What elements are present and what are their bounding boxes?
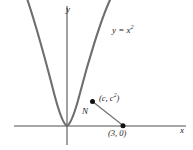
parabola-figure: y x y = x2 (c, c2) N (3, 0) — [0, 0, 193, 150]
curve-equation-label: y = x2 — [112, 26, 134, 35]
x-axis-label: x — [180, 126, 184, 135]
y-axis-label: y — [66, 5, 70, 14]
point-c-coordinates-open: (c, c — [99, 93, 114, 103]
curve-equation-exponent: 2 — [131, 24, 134, 30]
point-c-coordinates-close: ) — [117, 93, 120, 103]
point-marker-n — [90, 99, 95, 104]
point-n-label: N — [82, 107, 88, 116]
curve-equation-text: y = x — [112, 25, 131, 35]
figure-canvas — [0, 0, 193, 150]
point-c-coordinates-label: (c, c2) — [99, 94, 119, 103]
point-3-0-label: (3, 0) — [108, 129, 126, 138]
parabola-curve — [28, 0, 111, 126]
segment-n-to-point3 — [93, 102, 124, 126]
